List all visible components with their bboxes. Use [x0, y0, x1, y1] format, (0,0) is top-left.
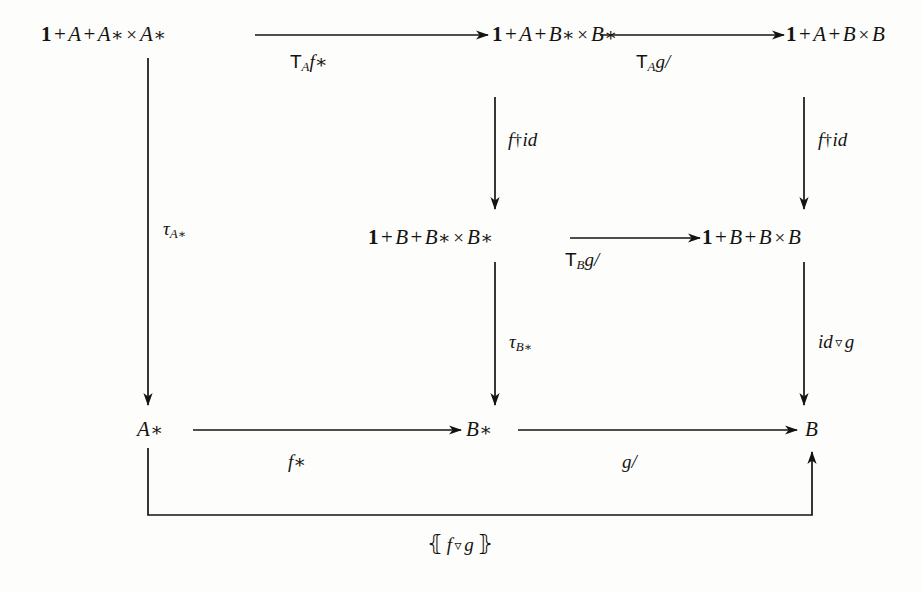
- label-tau-A-star: τA∗: [163, 219, 186, 240]
- node-top-middle: 1+A+B∗×B∗: [492, 24, 617, 45]
- label-f-dagger-id-right: f†id: [818, 130, 847, 149]
- node-bottom-right: B: [805, 419, 818, 440]
- label-TAf-star: TAf∗: [290, 52, 328, 73]
- node-top-left: 1+A+A∗×A∗: [41, 24, 166, 45]
- label-f-dagger-id-middle: f†id: [508, 130, 537, 149]
- arrow-banana-f-nabla-g: [148, 448, 812, 515]
- node-middle-middle: 1+B+B∗×B∗: [368, 227, 493, 248]
- label-id-nabla-g: id▿g: [818, 332, 854, 351]
- label-tau-B-star: τB∗: [509, 332, 532, 353]
- arrow-layer: [0, 0, 922, 593]
- label-TBg-slash: TBg/: [565, 250, 599, 271]
- node-bottom-left: A∗: [137, 419, 163, 440]
- label-g-slash: g/: [622, 452, 637, 471]
- label-TAg-slash: TAg/: [636, 52, 670, 73]
- node-bottom-middle: B∗: [466, 419, 492, 440]
- label-f-star: f∗: [288, 452, 306, 471]
- commutative-diagram-canvas: 1+A+A∗×A∗ 1+A+B∗×B∗ 1+A+B×B 1+B+B∗×B∗ 1+…: [0, 0, 922, 593]
- node-middle-right: 1+B+B×B: [702, 227, 801, 248]
- label-banana-f-nabla-g: ⦃ f▿g ⦄: [427, 533, 493, 555]
- node-top-right: 1+A+B×B: [786, 24, 885, 45]
